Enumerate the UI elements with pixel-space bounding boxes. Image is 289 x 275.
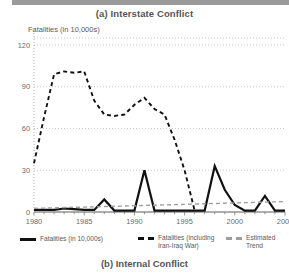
svg-text:1995: 1995	[176, 217, 192, 226]
legend-item-fatalities-iran-iraq: Fatalities (including Iran-Iraq War)	[138, 234, 214, 250]
svg-text:1990: 1990	[126, 217, 142, 226]
x-tick-marks	[34, 212, 285, 216]
gridlines	[34, 38, 285, 170]
legend-swatch-dashed-gray-icon	[226, 237, 242, 240]
figure-interstate-conflict: (a) Interstate Conflict Fatalities (in 1…	[0, 0, 289, 275]
figure-caption: (b) Internal Conflict	[0, 258, 289, 269]
svg-text:0: 0	[26, 208, 30, 217]
svg-text:120: 120	[18, 41, 30, 50]
svg-text:1985: 1985	[76, 217, 92, 226]
legend-item-fatalities: Fatalities (in 10,000s)	[20, 235, 103, 243]
svg-text:30: 30	[22, 166, 30, 175]
data-series	[34, 71, 285, 210]
chart-legend: Fatalities (in 10,000s) Fatalities (incl…	[0, 234, 289, 256]
y-tick-labels: 0306090120	[18, 41, 30, 217]
svg-text:1980: 1980	[26, 217, 42, 226]
legend-item-estimated-trend: Estimated Trend	[226, 234, 275, 250]
legend-label: Fatalities (in 10,000s)	[40, 235, 103, 243]
legend-label: Fatalities (including Iran-Iraq War)	[158, 234, 214, 250]
svg-text:90: 90	[22, 82, 30, 91]
x-tick-labels: 198019851990199520002005	[26, 217, 289, 226]
legend-swatch-dashed-black-icon	[138, 237, 154, 240]
legend-label: Estimated Trend	[246, 234, 275, 250]
svg-text:2000: 2000	[227, 217, 243, 226]
svg-text:2005: 2005	[277, 217, 289, 226]
legend-swatch-solid-icon	[20, 238, 36, 241]
axis-lines	[34, 30, 285, 212]
svg-text:60: 60	[22, 124, 30, 133]
